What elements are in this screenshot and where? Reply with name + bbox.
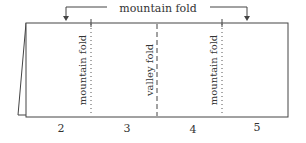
- arrow-down-right-icon: [244, 16, 250, 21]
- paper-sheet: [26, 23, 288, 117]
- panel-number-2: 2: [58, 122, 65, 135]
- fold-label-mountain-1: mountain fold: [77, 34, 88, 105]
- back-flap: [18, 23, 26, 115]
- fold-label-mountain-2: mountain fold: [208, 34, 219, 105]
- fold-diagram: mountain fold mountain fold valley fold …: [0, 0, 306, 143]
- fold-label-valley: valley fold: [144, 43, 155, 97]
- arrow-down-left-icon: [63, 16, 69, 21]
- panel-number-4: 4: [190, 123, 197, 136]
- panel-number-3: 3: [124, 122, 131, 135]
- panel-number-5: 5: [254, 121, 261, 134]
- top-label: mountain fold: [119, 2, 197, 15]
